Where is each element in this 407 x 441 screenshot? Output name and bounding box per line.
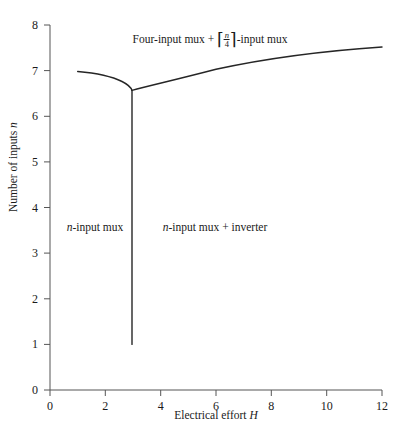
x-axis-title: Electrical effort H: [174, 410, 257, 422]
ceiling-close-bracket: ⌉: [230, 33, 237, 47]
x-tick-label-2: 2: [102, 400, 108, 412]
x-axis-title-variable: H: [249, 409, 257, 421]
y-tick-label-3: 3: [16, 247, 38, 259]
y-axis-title-text: Number of inputs: [7, 128, 19, 212]
region-label-right-text: -input mux + inverter: [168, 221, 267, 233]
region-label-top-part1: Four-input mux +: [133, 33, 218, 45]
region-label-left: n-input mux: [67, 222, 124, 234]
x-tick-label-10: 10: [321, 400, 333, 412]
x-tick-label-4: 4: [158, 400, 164, 412]
curve-upper-left: [78, 72, 132, 91]
y-tick-label-0: 0: [16, 384, 38, 396]
x-tick-label-0: 0: [47, 400, 53, 412]
x-tick-label-12: 12: [376, 400, 388, 412]
chart-figure: 8 7 6 5 4 3 2 1 0 0 2 4 6 8 10 12 Electr…: [0, 0, 407, 441]
region-label-top-part2: -input mux: [237, 33, 288, 45]
curve-upper-right: [132, 47, 382, 90]
region-label-top: Four-input mux + ⌈n4⌉-input mux: [133, 31, 288, 50]
y-tick-marks: [44, 25, 50, 390]
y-tick-label-2: 2: [16, 293, 38, 305]
y-tick-label-1: 1: [16, 338, 38, 350]
y-axis-title-variable: n: [7, 122, 19, 128]
y-axis-title: Number of inputs n: [8, 122, 20, 212]
y-tick-label-8: 8: [16, 19, 38, 31]
x-axis-title-text: Electrical effort: [174, 409, 249, 421]
y-tick-label-6: 6: [16, 110, 38, 122]
region-label-left-text: -input mux: [72, 221, 123, 233]
x-tick-marks: [50, 390, 382, 396]
ceiling-open-bracket: ⌈: [217, 33, 224, 47]
region-label-right: n-input mux + inverter: [163, 222, 268, 234]
y-tick-label-7: 7: [16, 65, 38, 77]
x-tick-label-8: 8: [268, 400, 274, 412]
